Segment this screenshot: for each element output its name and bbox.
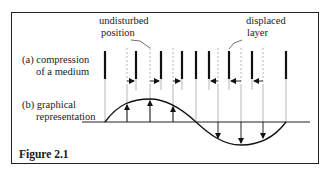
label-displaced: displaced (246, 15, 286, 26)
label-layer: layer (247, 27, 268, 38)
label-b-line2: representation (36, 111, 95, 122)
label-undisturbed: undisturbed (99, 15, 149, 26)
label-b-line1: (b) graphical (22, 99, 76, 110)
label-a-line2: of a medium (36, 66, 89, 77)
figure-caption: Figure 2.1 (19, 148, 69, 160)
label-position: position (101, 27, 135, 38)
displaced-layers (105, 51, 286, 79)
annotation-leaders (131, 40, 242, 49)
label-a-line1: (a) compression (22, 54, 89, 65)
